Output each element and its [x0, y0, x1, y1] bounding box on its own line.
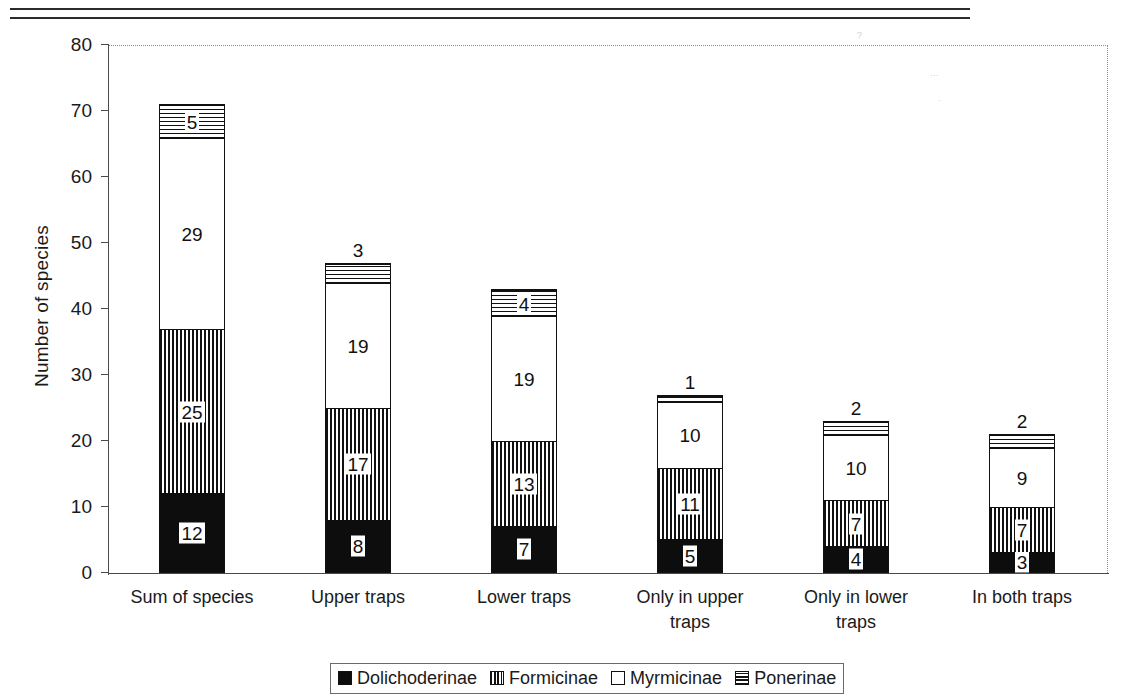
legend-item-label: Formicinae	[509, 667, 598, 689]
bar-segment-myrmicinae[interactable]: 29	[160, 138, 224, 329]
bar-segment-value-label: 2	[990, 411, 1054, 432]
y-axis-tick-mark	[101, 440, 109, 441]
bar-segment-formicinae[interactable]: 25	[160, 329, 224, 493]
x-axis-category-label: Lower traps	[441, 585, 607, 610]
bar-segment-myrmicinae[interactable]: 19	[326, 283, 390, 408]
bar-segment-value-label: 7	[824, 513, 888, 534]
x-axis-category-label: Sum of species	[109, 585, 275, 610]
bar-segment-dolichoderinae[interactable]: 8	[326, 520, 390, 572]
y-axis-tick-label: 60	[40, 164, 92, 189]
bar-segment-value-label: 8	[326, 535, 390, 556]
bar-segment-value-label: 10	[824, 458, 888, 479]
bar-segment-value-label: 7	[990, 520, 1054, 541]
bar-group: 3792	[939, 45, 1105, 573]
bar-segment-formicinae[interactable]: 7	[990, 507, 1054, 553]
y-axis-tick-mark	[101, 110, 109, 111]
legend-item-label: Dolichoderinae	[357, 667, 477, 689]
bar-segment-ponerinae[interactable]: 4	[492, 290, 556, 316]
bar-segment-value-label: 19	[492, 369, 556, 390]
y-axis-tick-mark	[101, 176, 109, 177]
bar-group: 47102	[773, 45, 939, 573]
chart-legend: DolichoderinaeFormicinaeMyrmicinaePoneri…	[330, 663, 844, 694]
stacked-bar[interactable]: 713194	[491, 289, 557, 573]
y-axis-tick-mark	[101, 506, 109, 507]
bar-segment-ponerinae[interactable]: 5	[160, 105, 224, 138]
y-axis-tick-label: 30	[40, 362, 92, 387]
stacked-bar-chart: Number of species 80706050403020100 1225…	[0, 0, 1143, 700]
y-axis-tick-label: 20	[40, 428, 92, 453]
bar-segment-formicinae[interactable]: 17	[326, 408, 390, 519]
y-axis-tick-label: 40	[40, 296, 92, 321]
legend-item[interactable]: Ponerinae	[735, 667, 836, 689]
x-axis-labels: Sum of speciesUpper trapsLower trapsOnly…	[109, 585, 1108, 645]
y-axis-tick-label: 0	[40, 560, 92, 585]
y-axis-tick-mark	[101, 44, 109, 45]
bar-segment-ponerinae[interactable]: 1	[658, 396, 722, 403]
bar-segment-formicinae[interactable]: 7	[824, 500, 888, 546]
bar-segment-value-label: 25	[160, 401, 224, 422]
bar-group: 713194	[441, 45, 607, 573]
bar-segment-value-label: 3	[326, 240, 390, 261]
y-axis-tick-mark	[101, 242, 109, 243]
bar-group: 511101	[607, 45, 773, 573]
y-axis-tick-mark	[101, 374, 109, 375]
bar-segment-value-label: 17	[326, 454, 390, 475]
bar-segment-dolichoderinae[interactable]: 7	[492, 526, 556, 572]
bar-segment-value-label: 12	[160, 522, 224, 543]
bar-segment-dolichoderinae[interactable]: 4	[824, 546, 888, 572]
bar-segment-ponerinae[interactable]: 2	[990, 435, 1054, 448]
bar-segment-value-label: 2	[824, 398, 888, 419]
bar-segment-value-label: 11	[658, 493, 722, 514]
legend-item[interactable]: Myrmicinae	[611, 667, 722, 689]
vertical-stripes-icon	[490, 671, 504, 685]
bar-segment-myrmicinae[interactable]: 19	[492, 316, 556, 441]
legend-item[interactable]: Dolichoderinae	[338, 667, 477, 689]
x-axis-category-label: In both traps	[939, 585, 1105, 610]
stacked-bar[interactable]: 1225295	[159, 104, 225, 573]
bar-segment-formicinae[interactable]: 11	[658, 468, 722, 540]
bar-segment-dolichoderinae[interactable]: 12	[160, 493, 224, 572]
bar-segment-value-label: 13	[492, 474, 556, 495]
bar-segment-value-label: 1	[658, 372, 722, 393]
legend-item-label: Ponerinae	[754, 667, 836, 689]
bar-segment-value-label: 10	[658, 425, 722, 446]
bar-segment-value-label: 7	[492, 539, 556, 560]
bar-segment-myrmicinae[interactable]: 9	[990, 448, 1054, 507]
horizontal-stripes-icon	[735, 671, 749, 685]
x-axis-category-label: Only in lowertraps	[773, 585, 939, 635]
stacked-bar[interactable]: 47102	[823, 421, 889, 573]
bar-segment-myrmicinae[interactable]: 10	[658, 402, 722, 467]
y-axis-tick-mark	[101, 308, 109, 309]
bar-segment-myrmicinae[interactable]: 10	[824, 435, 888, 500]
bar-group: 1225295	[109, 45, 275, 573]
bar-segment-dolichoderinae[interactable]: 3	[990, 552, 1054, 572]
bar-segment-value-label: 5	[658, 545, 722, 566]
bar-segment-value-label: 9	[990, 468, 1054, 489]
x-axis-category-label: Only in uppertraps	[607, 585, 773, 635]
solid-black-icon	[338, 671, 352, 685]
y-axis-tick-label: 70	[40, 98, 92, 123]
stacked-bar[interactable]: 817193	[325, 263, 391, 573]
bar-segment-dolichoderinae[interactable]: 5	[658, 539, 722, 572]
y-axis-tick-label: 10	[40, 494, 92, 519]
bar-segment-value-label: 4	[824, 548, 888, 569]
bar-segment-value-label: 4	[492, 293, 556, 314]
y-axis-tick-mark	[101, 572, 109, 573]
stacked-bar[interactable]: 511101	[657, 395, 723, 573]
x-axis-category-label: Upper traps	[275, 585, 441, 610]
bar-group: 817193	[275, 45, 441, 573]
y-axis-tick-label: 50	[40, 230, 92, 255]
legend-item[interactable]: Formicinae	[490, 667, 598, 689]
stacked-bar[interactable]: 3792	[989, 434, 1055, 573]
x-axis-line	[108, 573, 1109, 574]
white-icon	[611, 671, 625, 685]
bar-segment-value-label: 29	[160, 224, 224, 245]
bar-segment-ponerinae[interactable]: 2	[824, 422, 888, 435]
bar-segment-value-label: 3	[990, 552, 1054, 573]
bar-segment-value-label: 19	[326, 336, 390, 357]
bar-segment-ponerinae[interactable]: 3	[326, 264, 390, 284]
bar-segment-value-label: 5	[160, 112, 224, 133]
bar-segment-formicinae[interactable]: 13	[492, 441, 556, 526]
legend-item-label: Myrmicinae	[630, 667, 722, 689]
y-axis-tick-label: 80	[40, 32, 92, 57]
